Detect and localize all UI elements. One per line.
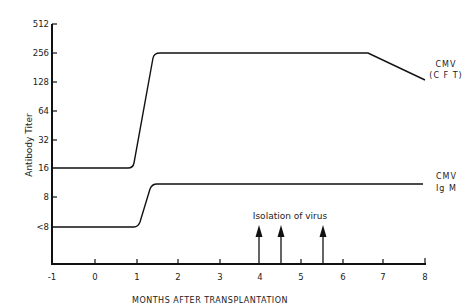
- y-tick-labels: 512 256 128 64 32 16 8 <8: [33, 19, 49, 232]
- x-axis-title: MONTHS AFTER TRANSPLANTATION: [132, 296, 288, 305]
- x-tick-3: 3: [217, 272, 222, 282]
- x-tick-5: 5: [298, 272, 303, 282]
- y-tick-512: 512: [33, 19, 49, 29]
- isolation-annotation: Isolation of virus: [253, 211, 328, 221]
- y-tick-64: 64: [38, 106, 49, 116]
- x-tick-1: 1: [134, 272, 139, 282]
- series-cmv-cft-line: [52, 53, 425, 168]
- x-tick-6: 6: [340, 272, 345, 282]
- y-tick-32: 32: [38, 135, 49, 145]
- x-tick-2: 2: [175, 272, 180, 282]
- isolation-arrows: [256, 225, 327, 264]
- series-label-cft-line1: CMV: [436, 60, 457, 69]
- series-cmv-igm-line: [52, 184, 423, 227]
- x-tick-0: 0: [92, 272, 97, 282]
- y-tick-8: 8: [44, 192, 49, 202]
- y-tick-16: 16: [38, 163, 49, 173]
- series-label-igm-line2: Ig M: [436, 184, 457, 193]
- x-tick-8: 8: [422, 272, 427, 282]
- y-tick-lt8: <8: [36, 222, 49, 232]
- y-tick-256: 256: [33, 48, 49, 58]
- arrow-up-icon: [256, 225, 263, 237]
- series-label-igm-line1: CMV: [436, 172, 457, 181]
- arrow-up-icon: [320, 225, 327, 237]
- x-tick-4: 4: [257, 272, 262, 282]
- y-tick-128: 128: [33, 77, 49, 87]
- y-axis-title: Antibody Titer: [24, 113, 34, 177]
- chart-svg: 512 256 128 64 32 16 8 <8 Antibody Titer…: [0, 0, 469, 306]
- x-tick-7: 7: [380, 272, 385, 282]
- x-tick-neg1: -1: [48, 272, 56, 282]
- x-tick-labels: -1 0 1 2 3 4 5 6 7 8: [48, 272, 428, 282]
- series-label-cft-line2: (C F T): [429, 71, 462, 80]
- arrow-up-icon: [278, 225, 285, 237]
